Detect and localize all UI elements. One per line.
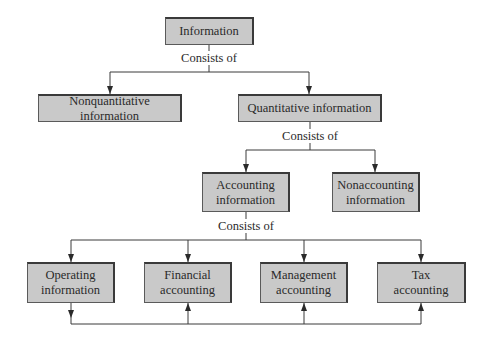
node-label: Tax accounting	[388, 268, 454, 298]
arrowhead-down-icon	[185, 254, 191, 262]
node-nonquantitative-information: Nonquantitative information	[38, 94, 182, 122]
node-label: Operating information	[36, 268, 106, 298]
node-financial-accounting: Financial accounting	[144, 262, 232, 303]
node-label: Accounting information	[211, 178, 281, 208]
arrowhead-up-icon	[301, 303, 307, 311]
node-label: Information	[179, 24, 239, 39]
edge-label-consists-of: Consists of	[280, 129, 340, 143]
node-quantitative-information: Quantitative information	[238, 94, 382, 122]
edge-label-consists-of: Consists of	[179, 51, 239, 65]
node-label: Financial accounting	[155, 268, 221, 298]
node-label: Quantitative information	[248, 101, 372, 116]
arrowhead-down-icon	[306, 86, 312, 94]
node-operating-information: Operating information	[27, 262, 115, 303]
node-nonaccounting-information: Nonaccounting information	[332, 172, 420, 212]
arrowhead-down-icon	[68, 254, 74, 262]
edge-label-consists-of: Consists of	[216, 219, 276, 233]
node-tax-accounting: Tax accounting	[377, 262, 466, 303]
node-management-accounting: Management accounting	[260, 262, 348, 303]
node-accounting-information: Accounting information	[202, 172, 290, 212]
arrowhead-up-icon	[185, 303, 191, 311]
arrowhead-down-icon	[243, 164, 249, 172]
arrowhead-down-icon	[418, 254, 424, 262]
arrowhead-up-icon	[418, 303, 424, 311]
arrowhead-down-icon	[372, 164, 378, 172]
diagram-canvas: Information Consists of Nonquantitative …	[0, 0, 492, 345]
node-label: Management accounting	[266, 268, 342, 298]
node-label: Nonquantitative information	[39, 94, 180, 124]
node-label: Nonaccounting information	[336, 178, 416, 208]
arrowhead-down-icon	[68, 310, 74, 318]
node-information: Information	[165, 17, 254, 45]
arrowhead-down-icon	[301, 254, 307, 262]
